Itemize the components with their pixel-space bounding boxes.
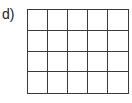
grid-cell — [28, 10, 48, 31]
grid-cell — [28, 31, 48, 52]
grid-cell — [48, 10, 68, 31]
grid-cell — [28, 72, 48, 93]
grid-cell — [108, 31, 128, 52]
grid-cell — [108, 52, 128, 73]
grid-cell — [88, 72, 108, 93]
part-label: d) — [2, 7, 14, 21]
grid-cell — [108, 10, 128, 31]
grid-cell — [108, 72, 128, 93]
grid-cell — [48, 72, 68, 93]
grid-cell — [48, 31, 68, 52]
grid-cell — [68, 72, 88, 93]
grid-cell — [28, 52, 48, 73]
grid-cell — [48, 52, 68, 73]
grid-diagram — [27, 9, 129, 94]
grid-cell — [68, 10, 88, 31]
grid-cell — [68, 31, 88, 52]
grid-cell — [88, 10, 108, 31]
grid-cell — [68, 52, 88, 73]
grid-cell — [88, 31, 108, 52]
grid-cell — [88, 52, 108, 73]
